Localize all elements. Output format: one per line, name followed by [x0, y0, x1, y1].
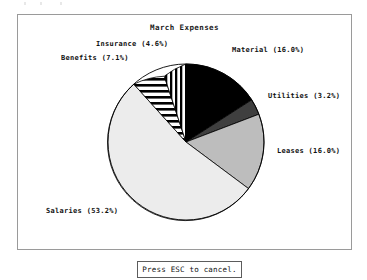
chart-title: March Expenses [18, 23, 351, 32]
pie-label-leases: Leases (16.0%) [277, 147, 340, 155]
scan-artifact [24, 2, 26, 5]
pie-label-benefits: Benefits (7.1%) [61, 54, 129, 62]
pie-label-salaries: Salaries (53.2%) [46, 207, 118, 215]
pie-label-utilities: Utilities (3.2%) [268, 92, 340, 100]
cancel-button[interactable]: Press ESC to cancel. [137, 261, 242, 278]
pie-label-material: Material (16.0%) [232, 46, 304, 54]
scan-artifact [60, 2, 62, 5]
pie-label-insurance: Insurance (4.6%) [96, 40, 168, 48]
scan-artifact [40, 2, 42, 5]
cancel-button-label: Press ESC to cancel. [142, 265, 236, 274]
application-screen: March Expenses [0, 0, 367, 280]
